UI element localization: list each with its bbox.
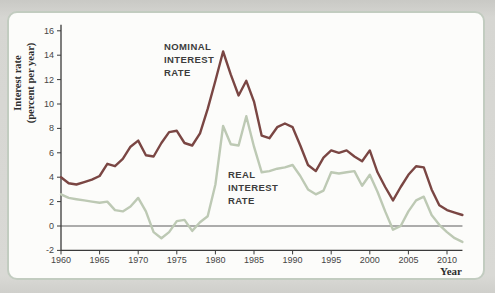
y-tick-label: 4 xyxy=(49,172,54,182)
y-tick-label: -2 xyxy=(46,245,54,255)
x-tick-label: 1985 xyxy=(244,255,264,265)
real-series-label-line1: REAL xyxy=(228,168,278,181)
interest-rate-line-chart: -202468101214161960196519701975198019851… xyxy=(0,0,495,293)
x-axis-ticks: 1960196519701975198019851990199520002005… xyxy=(51,250,457,265)
y-axis-title: Interest rate (percent per year) xyxy=(11,4,41,162)
nominal-series-label-line2: INTEREST xyxy=(164,53,214,66)
y-axis-ticks: -20246810121416 xyxy=(44,26,61,256)
y-tick-label: 12 xyxy=(44,75,54,85)
x-tick-label: 1960 xyxy=(51,255,71,265)
y-tick-label: 16 xyxy=(44,26,54,36)
real-series-label-line3: RATE xyxy=(228,194,278,207)
y-tick-label: 10 xyxy=(44,99,54,109)
x-tick-label: 1970 xyxy=(128,255,148,265)
nominal-series-label-line3: RATE xyxy=(164,66,214,79)
y-axis-title-line1: Interest rate xyxy=(11,4,24,162)
x-tick-label: 1975 xyxy=(167,255,187,265)
real-series-label-line2: INTEREST xyxy=(228,181,278,194)
y-tick-label: 0 xyxy=(49,221,54,231)
y-tick-label: 2 xyxy=(49,197,54,207)
x-tick-label: 1995 xyxy=(321,255,341,265)
x-tick-label: 1965 xyxy=(90,255,110,265)
nominal-series-label: NOMINAL INTEREST RATE xyxy=(164,40,214,79)
x-axis-title: Year xyxy=(400,265,462,277)
y-tick-label: 8 xyxy=(49,123,54,133)
x-tick-label: 2000 xyxy=(360,255,380,265)
real-series-label: REAL INTEREST RATE xyxy=(228,168,278,207)
x-tick-label: 2010 xyxy=(437,255,457,265)
y-tick-label: 6 xyxy=(49,148,54,158)
x-tick-label: 1980 xyxy=(205,255,225,265)
x-tick-label: 1990 xyxy=(283,255,303,265)
y-tick-label: 14 xyxy=(44,50,54,60)
nominal-series-label-line1: NOMINAL xyxy=(164,40,214,53)
y-axis-title-line2: (percent per year) xyxy=(24,4,37,162)
x-tick-label: 2005 xyxy=(398,255,418,265)
